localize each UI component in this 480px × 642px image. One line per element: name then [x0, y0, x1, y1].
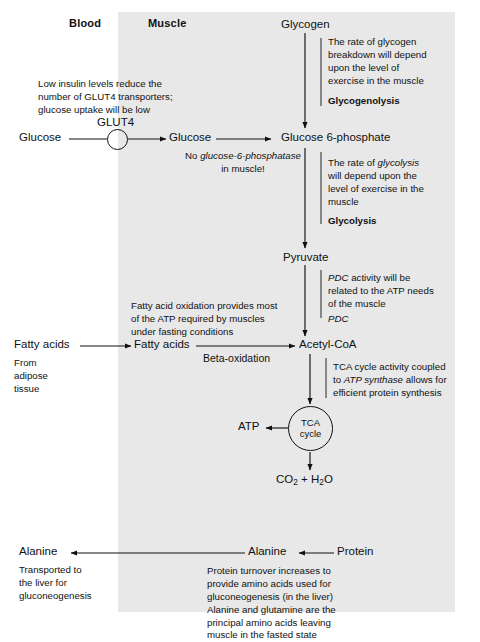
node-glucose-muscle: Glucose [169, 132, 211, 144]
note-transported-to-liver: Transported to the liver for gluconeogen… [19, 564, 129, 603]
node-co2-h2o: CO2 + H2O [276, 474, 333, 487]
header-blood: Blood [69, 18, 101, 29]
header-muscle: Muscle [148, 18, 187, 29]
note-protein-turnover: Protein turnover increases to provide am… [207, 565, 397, 642]
node-fatty-acids-blood: Fatty acids [14, 339, 70, 351]
enzyme-glycogenolysis: Glycogenolysis [328, 95, 400, 106]
node-protein: Protein [337, 546, 373, 558]
note-no-g6pase-prefix: No [185, 150, 200, 161]
note-pdc-activity: PDC activity will be related to the ATP … [328, 272, 464, 311]
note-no-g6pase-line2: in muscle! [221, 163, 265, 174]
note-from-adipose-tissue: From adipose tissue [14, 357, 104, 396]
node-alanine-muscle: Alanine [248, 546, 286, 558]
node-alanine-blood: Alanine [19, 546, 57, 558]
node-atp: ATP [238, 421, 260, 433]
label-tca-cycle: TCA cycle [288, 418, 333, 439]
note-glycolysis-rate: The rate of glycolysis will depend upon … [328, 157, 460, 209]
glut4-transporter-icon [107, 129, 128, 150]
note-fatty-acid-oxidation: Fatty acid oxidation provides most of th… [131, 300, 341, 339]
label-glut4: GLUT4 [97, 117, 134, 129]
node-fatty-acids-muscle: Fatty acids [134, 339, 190, 351]
note-glycogen-breakdown: The rate of glycogen breakdown will depe… [328, 36, 458, 88]
note-tca-italic: ATP synthase [344, 374, 403, 385]
note-no-g6pase: No glucose-6-phosphatasein muscle! [168, 150, 318, 176]
note-tca-coupled: TCA cycle activity coupled to ATP syntha… [333, 361, 471, 400]
node-acetyl-coa: Acetyl-CoA [299, 339, 357, 351]
note-glycolysis-prefix: The rate of [328, 157, 378, 168]
note-no-g6pase-enzyme: glucose-6-phosphatase [200, 150, 301, 161]
note-glycolysis-rest: will depend upon the level of exercise i… [328, 170, 424, 207]
node-glucose-6-phosphate: Glucose 6-phosphate [281, 132, 390, 144]
note-glycolysis-italic: glycolysis [378, 157, 419, 168]
note-low-insulin: Low insulin levels reduce the number of … [38, 78, 253, 117]
enzyme-beta-oxidation: Beta-oxidation [203, 353, 270, 364]
note-pdc-italic: PDC [328, 272, 348, 283]
node-pyruvate: Pyruvate [283, 252, 328, 264]
node-glycogen: Glycogen [281, 19, 330, 31]
enzyme-glycolysis: Glycolysis [328, 215, 376, 226]
node-glucose-blood: Glucose [19, 132, 61, 144]
